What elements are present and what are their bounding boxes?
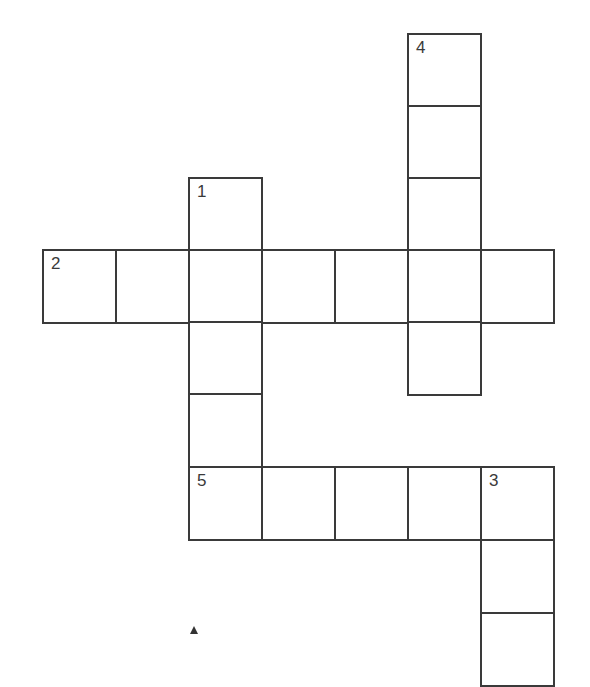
crossword-cell[interactable] bbox=[407, 321, 482, 396]
clue-number-label: 1 bbox=[197, 183, 206, 200]
clue-number-label: 3 bbox=[489, 472, 498, 489]
cell-letter-input[interactable] bbox=[190, 323, 261, 394]
cell-letter-input[interactable] bbox=[482, 614, 553, 685]
crossword-cell[interactable] bbox=[261, 249, 336, 324]
crossword-cell[interactable] bbox=[407, 249, 482, 324]
crossword-cell[interactable]: 2 bbox=[42, 249, 117, 324]
crossword-cell[interactable] bbox=[188, 249, 263, 324]
cell-letter-input[interactable] bbox=[409, 107, 480, 178]
crossword-cell[interactable]: 1 bbox=[188, 177, 263, 252]
cell-letter-input[interactable] bbox=[409, 251, 480, 322]
cell-letter-input[interactable] bbox=[482, 251, 553, 322]
cell-letter-input[interactable] bbox=[263, 468, 334, 539]
cell-letter-input[interactable] bbox=[190, 251, 261, 322]
crossword-cell[interactable] bbox=[480, 539, 555, 614]
crossword-cell[interactable] bbox=[261, 466, 336, 541]
clue-number-label: 5 bbox=[197, 472, 206, 489]
crossword-cell[interactable] bbox=[334, 466, 409, 541]
crossword-cell[interactable]: 4 bbox=[407, 33, 482, 108]
clue-number-label: 4 bbox=[416, 39, 425, 56]
crossword-cell[interactable] bbox=[480, 612, 555, 687]
crossword-cell[interactable] bbox=[188, 321, 263, 396]
crossword-cell[interactable] bbox=[407, 177, 482, 252]
crossword-cell[interactable] bbox=[334, 249, 409, 324]
crossword-cell[interactable]: 5 bbox=[188, 466, 263, 541]
cut-off-heading-glyph bbox=[190, 626, 198, 634]
cell-letter-input[interactable] bbox=[409, 323, 480, 394]
crossword-cell[interactable] bbox=[407, 466, 482, 541]
cell-letter-input[interactable] bbox=[190, 395, 261, 466]
cell-letter-input[interactable] bbox=[336, 251, 407, 322]
cell-letter-input[interactable] bbox=[409, 179, 480, 250]
cell-letter-input[interactable] bbox=[482, 541, 553, 612]
crossword-cell[interactable] bbox=[115, 249, 190, 324]
crossword-cell[interactable] bbox=[480, 249, 555, 324]
cell-letter-input[interactable] bbox=[117, 251, 188, 322]
clue-number-label: 2 bbox=[51, 255, 60, 272]
crossword-cell[interactable] bbox=[407, 105, 482, 180]
crossword-cell[interactable]: 3 bbox=[480, 466, 555, 541]
cell-letter-input[interactable] bbox=[409, 468, 480, 539]
cell-letter-input[interactable] bbox=[336, 468, 407, 539]
crossword-cell[interactable] bbox=[188, 393, 263, 468]
cell-letter-input[interactable] bbox=[263, 251, 334, 322]
